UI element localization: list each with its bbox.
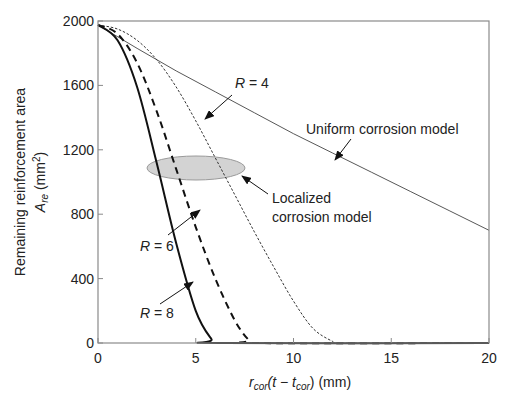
- annotation-uniform: Uniform corrosion model: [306, 121, 459, 160]
- y-tick-label: 1200: [63, 142, 94, 158]
- y-tick-label: 1600: [63, 77, 94, 93]
- plot-curves: [98, 25, 489, 343]
- y-tick-label: 2000: [63, 13, 94, 29]
- x-tick-label: 15: [383, 350, 399, 366]
- y-tick-label: 0: [86, 335, 94, 351]
- svg-text:corrosion model: corrosion model: [272, 209, 372, 225]
- curve-r-8: [98, 25, 489, 343]
- svg-text:Are (mm2): Are (mm2): [31, 152, 50, 213]
- x-tick-label: 5: [192, 350, 200, 366]
- y-tick-label: 800: [71, 206, 95, 222]
- x-axis-label: rcor(t − tcor) (mm): [249, 374, 351, 392]
- svg-text:Uniform corrosion model: Uniform corrosion model: [306, 121, 459, 137]
- y-tick-label: 400: [71, 271, 95, 287]
- svg-text:R = 6: R = 6: [140, 238, 174, 254]
- plot-frame: [98, 21, 489, 343]
- svg-text:Localized: Localized: [272, 190, 331, 206]
- y-axis-label: Remaining reinforcement area: [12, 88, 28, 277]
- x-tick-label: 20: [481, 350, 497, 366]
- annotation-r8: R = 8: [140, 282, 193, 321]
- x-tick-label: 10: [286, 350, 302, 366]
- svg-text:R = 4: R = 4: [235, 75, 269, 91]
- curve-r-6: [98, 25, 489, 343]
- curve-r-4: [98, 25, 489, 343]
- y-axis-label-line1: Remaining reinforcement area: [12, 88, 28, 277]
- annotation-r4: R = 4: [205, 75, 269, 119]
- annotation-localized: Localized corrosion model: [242, 176, 372, 225]
- x-tick-label: 0: [94, 350, 102, 366]
- localized-region-ellipse: [147, 156, 245, 180]
- chart: 051015200400800120016002000 Remaining re…: [0, 0, 507, 404]
- svg-text:R = 8: R = 8: [140, 305, 174, 321]
- y-axis-label-symbol: Are (mm2): [31, 152, 50, 213]
